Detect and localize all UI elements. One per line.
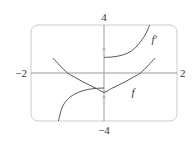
x-min-label: −2 bbox=[15, 67, 27, 79]
chart: −2 2 4 −4 f′ f bbox=[0, 0, 195, 148]
y-max-label: 4 bbox=[101, 11, 107, 23]
x-max-label: 2 bbox=[180, 67, 186, 79]
curve-f-prime-0 bbox=[58, 88, 104, 121]
f-prime-label: f′ bbox=[151, 33, 157, 45]
y-min-label: −4 bbox=[98, 124, 110, 136]
curve-f-prime-1 bbox=[104, 25, 150, 57]
f-label: f bbox=[131, 86, 136, 98]
